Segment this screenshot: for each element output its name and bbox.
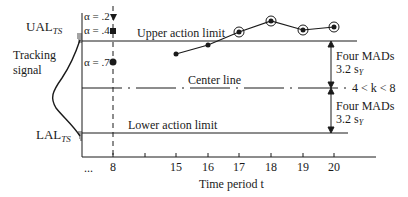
lower-action-limit-label: Lower action limit [128,118,218,132]
x-ticks [113,153,334,157]
alpha-02-label: α = .2 [84,10,110,22]
svg-text:16: 16 [202,160,214,174]
upper-bracket-label-1: Four MADs [336,49,395,63]
triangle-down-icon [110,14,117,21]
square-icon [110,28,116,34]
svg-text:8: 8 [110,160,116,174]
alpha-07-label: α = .7 [84,56,110,68]
lal-label: LALTS [36,127,71,144]
tracking-signal-diagram: UALTS Tracking signal LALTS α = .2 α = .… [0,0,408,197]
svg-text:19: 19 [297,160,309,174]
svg-text:18: 18 [265,160,277,174]
svg-text:17: 17 [233,160,245,174]
alpha-04-label: α = .4 [84,24,110,36]
tracking-signal-label-2: signal [13,63,42,77]
x-axis-label: Time period t [199,177,265,191]
circle-icon [110,59,117,66]
lower-bracket-arrow [328,88,334,133]
svg-text:15: 15 [170,160,182,174]
x-tick-labels: 8 15 16 17 18 19 20 [110,160,340,174]
lower-bracket-label-2: 3.2 sY [336,112,365,127]
k-range-label: 4 < k < 8 [352,81,396,95]
upper-bracket-label-2: 3.2 sY [336,62,365,77]
out-of-control-rings [234,16,339,37]
svg-text:20: 20 [328,160,340,174]
upper-bracket-arrow [328,41,334,88]
ual-label: UALTS [26,19,63,36]
distribution-curve [53,40,80,136]
center-line-label: Center line [188,73,241,87]
lower-bracket-label-1: Four MADs [336,99,395,113]
x-axis-ellipsis: ... [84,161,93,175]
upper-action-limit-label: Upper action limit [137,26,226,40]
tracking-signal-label-1: Tracking [13,48,56,62]
